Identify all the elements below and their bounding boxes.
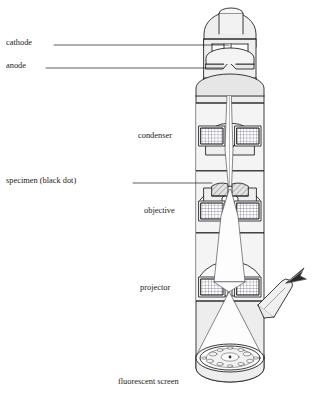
label-projector: projector [140, 284, 170, 292]
eye-symbol [286, 268, 306, 283]
label-cathode: cathode [6, 39, 32, 47]
label-anode: anode [6, 62, 26, 70]
label-objective: objective [144, 207, 175, 215]
tem-diagram-svg [0, 0, 318, 398]
label-condenser: condenser [138, 132, 172, 140]
tem-diagram: cathode anode condenser specimen (black … [0, 0, 318, 398]
fluorescent-screen [196, 344, 264, 382]
label-fluorescent-screen: fluorescent screen [118, 378, 179, 386]
label-specimen: specimen (black dot) [6, 177, 76, 185]
